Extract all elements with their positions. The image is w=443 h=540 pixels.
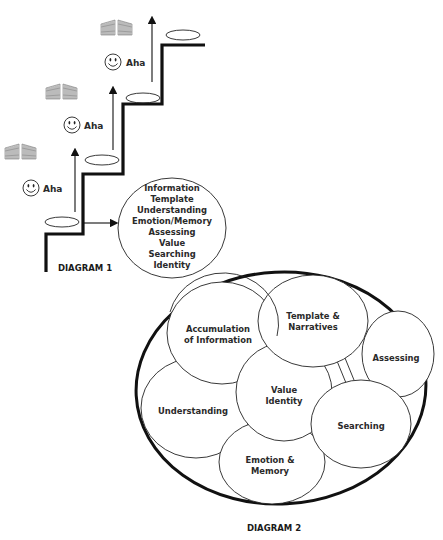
diagram-2-caption: DIAGRAM 2 (247, 523, 301, 533)
gate-icon (46, 84, 77, 99)
label-accumulation: Accumulation (186, 324, 250, 334)
circle-item: Value (159, 238, 186, 248)
gate-icon (5, 144, 36, 159)
label-value: Value (271, 385, 298, 395)
circle-item: Assessing (149, 227, 196, 237)
circle-template-narratives (258, 275, 368, 367)
step-platform-2 (85, 155, 119, 165)
smiley-icon (23, 180, 39, 196)
label-assessing: Assessing (373, 353, 420, 363)
diagram-2: Accumulation of Information Template & N… (130, 265, 434, 533)
step-platform-3 (126, 93, 160, 103)
circle-item: Identity (153, 260, 191, 270)
diagram-1: Aha Aha Aha Information Template Underst… (5, 20, 226, 278)
aha-label: Aha (126, 58, 145, 68)
aha-label: Aha (43, 184, 62, 194)
circle-item: Understanding (137, 205, 207, 215)
circle-item: Template (150, 194, 194, 204)
diagram-canvas: Aha Aha Aha Information Template Underst… (0, 0, 443, 540)
label-identity: Identity (265, 396, 303, 406)
label-emotion: Emotion & (245, 455, 294, 465)
circle-item: Information (144, 183, 200, 193)
step-platform-1 (45, 217, 79, 227)
aha-label: Aha (84, 121, 103, 131)
step-platform-4 (166, 30, 200, 40)
label-template-2: Narratives (288, 322, 338, 332)
circle-item: Emotion/Memory (132, 216, 212, 226)
label-accumulation-2: of Information (184, 335, 252, 345)
label-memory: Memory (251, 466, 290, 476)
diagram-1-caption: DIAGRAM 1 (58, 263, 112, 273)
label-template: Template & (286, 311, 339, 321)
smiley-icon (105, 54, 121, 70)
smiley-icon (64, 117, 80, 133)
circle-item: Searching (148, 249, 195, 259)
label-understanding: Understanding (158, 406, 228, 416)
gate-icon (101, 20, 132, 35)
label-searching: Searching (337, 421, 384, 431)
